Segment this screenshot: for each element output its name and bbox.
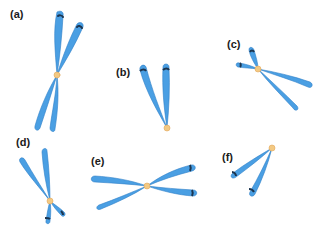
chromosome-types-figure: (a) (b) (c) (d) (e) (f)	[0, 0, 331, 234]
panel-label-b: (b)	[116, 66, 130, 78]
panel-label-a: (a)	[10, 8, 23, 20]
chromosome-e	[91, 165, 197, 210]
panel-label-f: (f)	[222, 151, 233, 163]
panel-label-c: (c)	[227, 38, 240, 50]
chromosome-d	[20, 148, 66, 223]
panel-label-d: (d)	[16, 136, 30, 148]
chromosome-drawings	[0, 0, 331, 234]
chromosome-b	[140, 64, 170, 131]
chromosome-a	[35, 11, 83, 131]
panel-label-e: (e)	[91, 155, 104, 167]
chromosome-c	[236, 47, 312, 110]
chromosome-f	[231, 145, 275, 196]
